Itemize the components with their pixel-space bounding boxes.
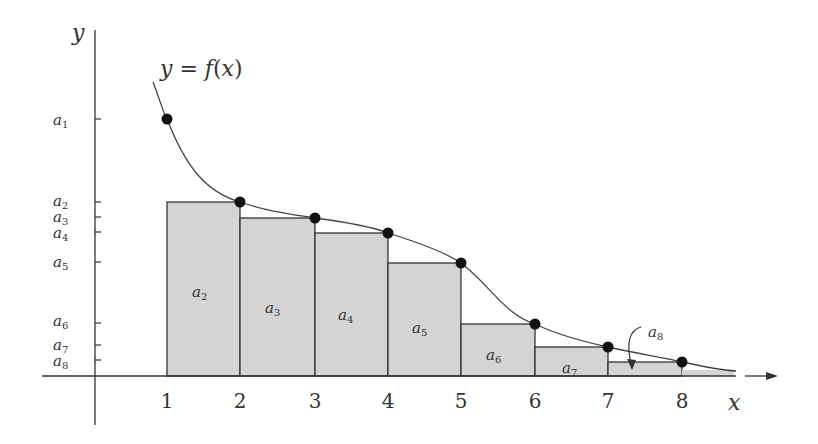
svg-text:6: 6 [529,389,542,413]
x-axis-label: x [728,390,741,415]
curve-label: y = f(x) [159,56,243,81]
svg-text:2: 2 [234,389,247,413]
svg-text:8: 8 [676,389,689,413]
rect-a5 [388,263,461,376]
svg-text:1: 1 [161,389,174,413]
svg-text:4: 4 [382,389,395,413]
y-tick-labels: a1 a2 a3 a4 a5 a6 a7 a8 [53,111,68,371]
diagram-canvas: y x y = f(x) 1234 5678 a1 a2 a3 a4 a5 a6… [0,0,818,444]
y-ticks [95,119,101,360]
svg-text:5: 5 [455,389,468,413]
rect-a6 [461,324,535,376]
x-axis-arrowhead-icon [766,372,778,380]
svg-text:a8: a8 [648,323,663,342]
svg-text:a1: a1 [53,111,68,130]
rectangles [167,202,734,376]
rect-a3 [240,218,315,376]
riemann-sum-diagram: y x y = f(x) 1234 5678 a1 a2 a3 a4 a5 a6… [0,0,818,444]
svg-text:a5: a5 [53,253,68,272]
rect-a4 [315,233,388,376]
rect-tail [682,370,734,376]
rect-a2 [167,202,240,376]
svg-text:a6: a6 [53,312,68,331]
rect-a8 [608,362,682,376]
x-tick-labels: 1234 5678 [161,389,689,413]
y-axis-label: y [71,20,85,45]
svg-text:3: 3 [309,389,322,413]
svg-text:7: 7 [602,389,615,413]
annotation-arrow [629,327,641,364]
